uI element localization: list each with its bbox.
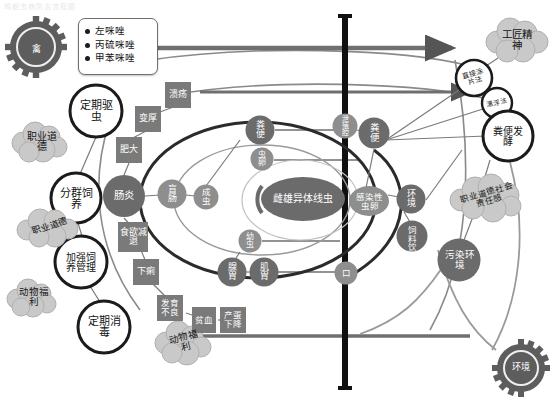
drug-legend-list: 左咪唑 丙硫咪唑 甲苯咪唑 bbox=[85, 25, 157, 66]
gear-poultry bbox=[5, 16, 67, 78]
drug-legend: 左咪唑 丙硫咪唑 甲苯咪唑 bbox=[78, 18, 158, 75]
legend-item: 甲苯咪唑 bbox=[85, 52, 157, 66]
biology-nodes bbox=[103, 114, 481, 287]
legend-label: 甲苯咪唑 bbox=[95, 52, 135, 66]
legend-item: 左咪唑 bbox=[85, 25, 157, 39]
bullet-icon bbox=[85, 29, 90, 34]
legend-label: 左咪唑 bbox=[95, 25, 125, 39]
legend-label: 丙硫咪唑 bbox=[95, 39, 135, 53]
bullet-icon bbox=[85, 56, 90, 61]
gear-environment bbox=[492, 339, 550, 397]
bullet-icon bbox=[85, 43, 90, 48]
diagram-canvas: 鸡蛔虫病防治流程图 bbox=[0, 0, 560, 405]
legend-item: 丙硫咪唑 bbox=[85, 39, 157, 53]
